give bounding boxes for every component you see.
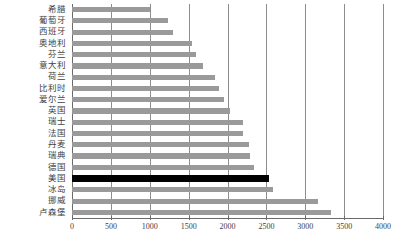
bar-瑞典: [72, 153, 250, 158]
bar-意大利: [72, 63, 203, 68]
bar-挪威: [72, 199, 318, 204]
bar-希腊: [72, 7, 150, 12]
x-tick-mark-1000: [150, 216, 151, 220]
bar-row: [72, 52, 383, 57]
bar-卢森堡: [72, 210, 331, 215]
category-label-挪威: 挪威: [48, 196, 66, 205]
category-label-美国: 美国: [48, 174, 66, 183]
bar-美国: [72, 175, 269, 181]
category-label-比利时: 比利时: [39, 84, 66, 93]
category-label-卢森堡: 卢森堡: [39, 208, 66, 217]
bar-冰岛: [72, 187, 273, 192]
category-label-爱尔兰: 爱尔兰: [39, 95, 66, 104]
bar-row: [72, 97, 383, 102]
bar-row: [72, 108, 383, 113]
bar-德国: [72, 165, 254, 170]
bar-比利时: [72, 86, 219, 91]
category-label-丹麦: 丹麦: [48, 140, 66, 149]
bar-英国: [72, 108, 230, 113]
x-tick-mark-3500: [344, 216, 345, 220]
x-tick-label-3500: 3500: [336, 222, 352, 232]
category-label-芬兰: 芬兰: [48, 50, 66, 59]
bar-row: [72, 75, 383, 80]
bar-芬兰: [72, 52, 196, 57]
bar-row: [72, 165, 383, 170]
category-label-英国: 英国: [48, 106, 66, 115]
category-label-法国: 法国: [48, 129, 66, 138]
category-label-冰岛: 冰岛: [48, 185, 66, 194]
category-label-希腊: 希腊: [48, 5, 66, 14]
category-labels: 希腊葡萄牙西班牙奥地利芬兰意大利荷兰比利时爱尔兰英国瑞士法国丹麦瑞典德国美国冰岛…: [0, 4, 70, 218]
bar-row: [72, 86, 383, 91]
x-tick-mark-500: [111, 216, 112, 220]
x-tick-mark-4000: [383, 216, 384, 220]
x-tick-label-2000: 2000: [220, 222, 236, 232]
bar-葡萄牙: [72, 18, 168, 23]
bar-row: [72, 210, 383, 215]
bar-row: [72, 7, 383, 12]
x-tick-label-0: 0: [70, 222, 74, 232]
bar-奥地利: [72, 41, 192, 46]
bar-row: [72, 18, 383, 23]
bar-row: [72, 153, 383, 158]
bar-荷兰: [72, 75, 215, 80]
bar-row: [72, 187, 383, 192]
bar-爱尔兰: [72, 97, 224, 102]
x-tick-mark-3000: [305, 216, 306, 220]
bar-row: [72, 131, 383, 136]
category-label-荷兰: 荷兰: [48, 72, 66, 81]
x-tick-label-2500: 2500: [258, 222, 274, 232]
bar-row: [72, 30, 383, 35]
x-tick-mark-0: [72, 216, 73, 220]
bar-row: [72, 41, 383, 46]
category-label-瑞士: 瑞士: [48, 117, 66, 126]
bar-row: [72, 142, 383, 147]
category-label-瑞典: 瑞典: [48, 151, 66, 160]
category-label-葡萄牙: 葡萄牙: [39, 16, 66, 25]
category-label-奥地利: 奥地利: [39, 39, 66, 48]
gridline-4000: [383, 4, 384, 218]
bars-layer: [72, 4, 383, 218]
category-label-西班牙: 西班牙: [39, 27, 66, 36]
x-tick-label-1000: 1000: [142, 222, 158, 232]
bar-row: [72, 199, 383, 204]
bar-法国: [72, 131, 243, 136]
bar-西班牙: [72, 30, 173, 35]
bar-row: [72, 63, 383, 68]
x-tick-label-4000: 4000: [375, 222, 391, 232]
x-tick-label-1500: 1500: [181, 222, 197, 232]
plot-area: [72, 4, 383, 218]
bar-row: [72, 120, 383, 125]
x-tick-mark-2500: [266, 216, 267, 220]
x-axis-ticks: 05001000150020002500300035004000: [0, 220, 400, 240]
x-tick-mark-1500: [189, 216, 190, 220]
bar-丹麦: [72, 142, 249, 147]
bar-chart: 希腊葡萄牙西班牙奥地利芬兰意大利荷兰比利时爱尔兰英国瑞士法国丹麦瑞典德国美国冰岛…: [0, 0, 400, 249]
bar-瑞士: [72, 120, 243, 125]
x-tick-label-3000: 3000: [297, 222, 313, 232]
x-tick-mark-2000: [228, 216, 229, 220]
category-label-意大利: 意大利: [39, 61, 66, 70]
x-tick-label-500: 500: [105, 222, 117, 232]
category-label-德国: 德国: [48, 163, 66, 172]
bar-row: [72, 175, 383, 181]
